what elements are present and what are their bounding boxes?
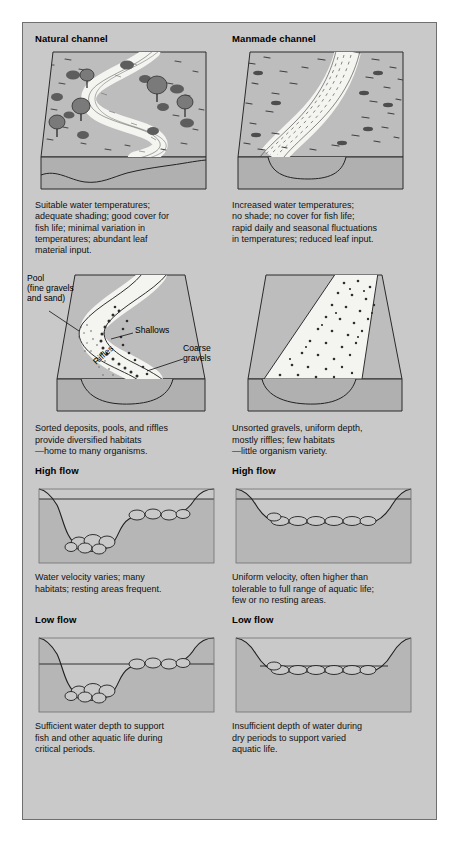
- heading-natural-channel: Natural channel: [35, 33, 218, 44]
- manmade-deposits-svg: [232, 267, 415, 417]
- figure-manmade-high-flow: [232, 481, 415, 566]
- heading-manmade-channel: Manmade channel: [232, 33, 415, 44]
- figure-plate: Natural channel: [22, 22, 437, 820]
- figure-natural-low-flow: [35, 630, 218, 715]
- subtitle-natural-high-flow: High flow: [35, 465, 218, 476]
- caption-manmade-plan: Increased water temperatures; no shade; …: [232, 200, 415, 245]
- coarse-gravels-label: Coarse gravels: [183, 343, 211, 363]
- caption-manmade-low-flow: Insufficient depth of water during dry p…: [232, 721, 415, 755]
- natural-plan-svg: [35, 49, 218, 194]
- subtitle-natural-low-flow: Low flow: [35, 614, 218, 625]
- manmade-plan-svg: [232, 49, 415, 194]
- column-manmade-high-flow: High flow: [232, 465, 415, 606]
- column-manmade-deposits: Unsorted gravels, uniform depth, mostly …: [232, 267, 415, 457]
- pool-label: Pool (fine gravels and sand): [27, 273, 74, 303]
- column-natural-high-flow: High flow: [35, 465, 218, 606]
- subtitle-manmade-high-flow: High flow: [232, 465, 415, 476]
- manmade-high-flow-svg: [232, 481, 415, 566]
- caption-natural-deposits: Sorted deposits, pools, and riffles prov…: [35, 423, 218, 457]
- natural-low-flow-svg: [35, 630, 218, 715]
- natural-high-flow-svg: [35, 481, 218, 566]
- caption-natural-low-flow: Sufficient water depth to support fish a…: [35, 721, 218, 755]
- page-root: Natural channel: [0, 0, 465, 852]
- figure-manmade-low-flow: [232, 630, 415, 715]
- column-manmade-plan: Manmade channel: [232, 33, 415, 256]
- caption-manmade-deposits: Unsorted gravels, uniform depth, mostly …: [232, 423, 415, 457]
- figure-manmade-deposits: [232, 267, 415, 417]
- column-natural-plan: Natural channel: [35, 33, 218, 256]
- row-gap-1: [35, 256, 424, 267]
- shallows-label: Shallows: [135, 325, 169, 335]
- column-natural-low-flow: Low flow: [35, 614, 218, 755]
- row-low-flow: Low flow: [35, 614, 424, 755]
- row-plan-view: Natural channel: [35, 33, 424, 256]
- subtitle-manmade-low-flow: Low flow: [232, 614, 415, 625]
- manmade-low-flow-svg: [232, 630, 415, 715]
- caption-manmade-high-flow: Uniform velocity, often higher than tole…: [232, 572, 415, 606]
- caption-natural-high-flow: Water velocity varies; many habitats; re…: [35, 572, 218, 595]
- caption-natural-plan: Suitable water temperatures; adequate sh…: [35, 200, 218, 256]
- row-gap-2: [35, 457, 424, 465]
- row-bed-deposits: Pool (fine gravels and sand) Shallows Ri…: [35, 267, 424, 457]
- figure-natural-plan-block: [35, 49, 218, 194]
- figure-manmade-plan-block: [232, 49, 415, 194]
- column-manmade-low-flow: Low flow: [232, 614, 415, 755]
- column-natural-deposits: Pool (fine gravels and sand) Shallows Ri…: [35, 267, 218, 457]
- figure-inner: Natural channel: [23, 23, 436, 819]
- row-high-flow: High flow: [35, 465, 424, 606]
- row-gap-3: [35, 606, 424, 614]
- figure-natural-high-flow: [35, 481, 218, 566]
